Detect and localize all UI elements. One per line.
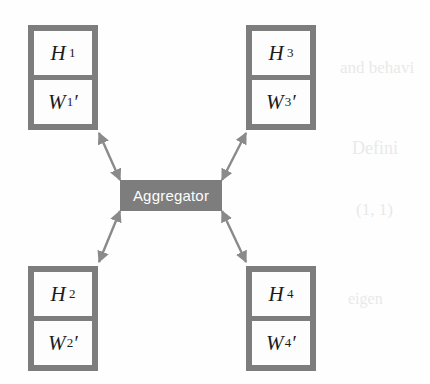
node-4-weight-symbol: W <box>266 331 284 356</box>
node-2-weight-cell: W2′ <box>34 321 92 365</box>
node-4-head-subscript: 4 <box>287 286 294 302</box>
node-2-weight-symbol: W <box>48 331 66 356</box>
node-1-weight-symbol: W <box>48 90 66 115</box>
node-3-weight-prime: ′ <box>291 91 296 114</box>
node-4-head-symbol: H <box>269 282 284 307</box>
node-1-head-subscript: 1 <box>69 45 76 61</box>
aggregator-node[interactable]: Aggregator <box>120 180 222 211</box>
node-2-head-symbol: H <box>51 282 66 307</box>
diagram-canvas: and behavi Defini (1, 1) eigen H1 W1′ H3… <box>0 0 430 384</box>
node-1-head-cell: H1 <box>34 31 92 75</box>
node-2-head-subscript: 2 <box>69 286 76 302</box>
node-3-head-symbol: H <box>269 41 284 66</box>
node-4-weight-prime: ′ <box>291 332 296 355</box>
node-1-head-symbol: H <box>51 41 66 66</box>
edge-aggregator-node-2 <box>99 211 120 262</box>
node-2-weight-prime: ′ <box>73 332 78 355</box>
node-4-head-cell: H4 <box>252 272 310 316</box>
edge-aggregator-node-1 <box>99 133 120 180</box>
node-1-weight-cell: W1′ <box>34 80 92 124</box>
edge-aggregator-node-3 <box>222 133 246 180</box>
node-4-weight-cell: W4′ <box>252 321 310 365</box>
node-1-weight-prime: ′ <box>73 91 78 114</box>
node-2-head-cell: H2 <box>34 272 92 316</box>
node-4[interactable]: H4 W4′ <box>246 266 316 371</box>
node-3[interactable]: H3 W3′ <box>246 25 316 130</box>
edge-aggregator-node-4 <box>222 211 246 262</box>
node-1[interactable]: H1 W1′ <box>28 25 98 130</box>
node-3-weight-symbol: W <box>266 90 284 115</box>
node-3-head-subscript: 3 <box>287 45 294 61</box>
node-2[interactable]: H2 W2′ <box>28 266 98 371</box>
node-3-head-cell: H3 <box>252 31 310 75</box>
node-3-weight-cell: W3′ <box>252 80 310 124</box>
aggregator-label: Aggregator <box>133 187 209 204</box>
